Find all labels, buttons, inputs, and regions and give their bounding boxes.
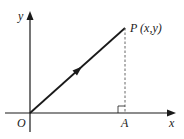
y-axis-label: y bbox=[17, 9, 24, 23]
x-axis-label: x bbox=[168, 116, 175, 130]
y-axis-arrow-icon bbox=[27, 11, 34, 20]
right-angle-marker bbox=[118, 106, 125, 113]
point-p-label: P (x,y) bbox=[129, 21, 162, 35]
vector-diagram: y P (x,y) O A x bbox=[0, 0, 184, 139]
point-a-label: A bbox=[120, 116, 129, 130]
origin-label: O bbox=[17, 116, 26, 130]
